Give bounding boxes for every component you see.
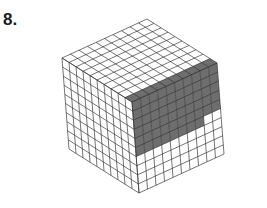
cube-diagram (0, 0, 267, 208)
shaded-region (125, 59, 221, 157)
